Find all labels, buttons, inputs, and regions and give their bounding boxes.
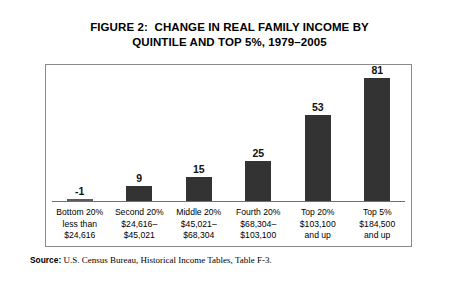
bar-rect	[186, 177, 212, 201]
x-axis-label-cell: Top 5% $184,500 and up	[348, 204, 408, 246]
x-axis-label-cell: Fourth 20% $68,304– $103,100	[229, 204, 289, 246]
x-axis-line	[52, 201, 405, 202]
bar-group: 53	[288, 65, 348, 201]
bar-group: 25	[229, 65, 289, 201]
bar-value-label: 53	[312, 102, 324, 113]
bar-value-label: 81	[371, 65, 383, 76]
figure-title-line-2: QUINTILE AND TOP 5%, 1979–2005	[14, 35, 445, 50]
x-axis-label-line: $184,500	[348, 219, 408, 231]
bar-group: 81	[348, 65, 408, 201]
bar-rect	[364, 78, 390, 201]
bar-group: -1	[50, 65, 110, 201]
x-axis-label-line: $103,100	[229, 230, 289, 242]
figure-title-line-1: FIGURE 2: CHANGE IN REAL FAMILY INCOME B…	[14, 20, 445, 35]
x-axis-label-line: Middle 20%	[169, 207, 229, 219]
bar-value-label: 15	[193, 164, 205, 175]
figure-frame: FIGURE 2: CHANGE IN REAL FAMILY INCOME B…	[14, 12, 445, 283]
x-axis-label-line: Fourth 20%	[229, 207, 289, 219]
bar-rect	[245, 161, 271, 201]
x-axis-label-line: Second 20%	[110, 207, 170, 219]
chart-plot-area: -1 9 15 25 53 81	[45, 64, 412, 247]
figure-title: FIGURE 2: CHANGE IN REAL FAMILY INCOME B…	[14, 20, 445, 50]
bar-group: 9	[110, 65, 170, 201]
x-axis-label-line: $24,616–	[110, 219, 170, 231]
x-axis-label-cell: Second 20% $24,616– $45,021	[110, 204, 170, 246]
x-axis-label-line: Bottom 20%	[50, 207, 110, 219]
bar-value-label: -1	[75, 186, 84, 197]
bar-value-label: 9	[136, 173, 142, 184]
x-axis-label-line: Top 5%	[348, 207, 408, 219]
x-axis-labels: Bottom 20% less than $24,616 Second 20% …	[46, 204, 411, 246]
x-axis-label-line: $103,100	[288, 219, 348, 231]
x-axis-label-line: less than	[50, 219, 110, 231]
x-axis-label-cell: Bottom 20% less than $24,616	[50, 204, 110, 246]
source-note-label: Source:	[30, 255, 61, 265]
bar-rect	[126, 186, 152, 201]
source-note-text: U.S. Census Bureau, Historical Income Ta…	[61, 255, 272, 265]
x-axis-label-line: $45,021–	[169, 219, 229, 231]
x-axis-label-line: $68,304	[169, 230, 229, 242]
x-axis-label-line: and up	[348, 230, 408, 242]
x-axis-label-line: Top 20%	[288, 207, 348, 219]
bar-group: 15	[169, 65, 229, 201]
bar-series: -1 9 15 25 53 81	[46, 65, 411, 201]
bar-rect	[305, 115, 331, 201]
bar-value-label: 25	[252, 148, 264, 159]
x-axis-label-line: $24,616	[50, 230, 110, 242]
x-axis-label-line: $68,304–	[229, 219, 289, 231]
x-axis-label-cell: Middle 20% $45,021– $68,304	[169, 204, 229, 246]
x-axis-label-cell: Top 20% $103,100 and up	[288, 204, 348, 246]
source-note: Source: U.S. Census Bureau, Historical I…	[30, 255, 272, 265]
x-axis-label-line: $45,021	[110, 230, 170, 242]
x-axis-label-line: and up	[288, 230, 348, 242]
